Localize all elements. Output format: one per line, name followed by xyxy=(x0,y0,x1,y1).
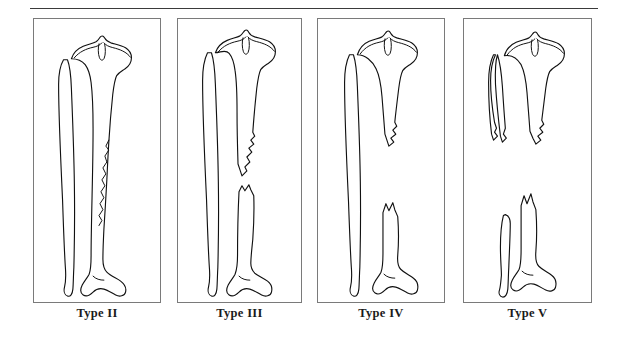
fibula-outline-type-2 xyxy=(59,60,75,297)
tibia-proximal-fragment-type-3 xyxy=(215,30,275,176)
tibia-distal-fragment-type-3 xyxy=(227,185,272,296)
panel-type-3 xyxy=(177,18,302,303)
fibula-outline-type-3 xyxy=(203,53,219,296)
label-type-5: Type V xyxy=(463,304,592,322)
label-type-4: Type IV xyxy=(317,304,445,322)
panel-type-4 xyxy=(317,18,445,303)
figure-root: Type II Type III Type IV Type V xyxy=(0,0,618,346)
tibia-outline-type-2 xyxy=(71,36,131,296)
bone-illustration-type-2 xyxy=(34,19,160,302)
fibula-proximal-fragment-type-5 xyxy=(489,55,507,142)
panel-row xyxy=(0,18,618,304)
fibula-outline-type-4 xyxy=(345,55,361,296)
bone-illustration-type-4 xyxy=(318,19,444,302)
bone-illustration-type-3 xyxy=(178,19,301,302)
label-type-3: Type III xyxy=(177,304,302,322)
header-divider-rule xyxy=(30,8,598,9)
tibia-distal-fragment-type-5 xyxy=(511,194,556,291)
label-type-2: Type II xyxy=(33,304,161,322)
fibula-distal-fragment-type-5 xyxy=(499,215,510,297)
panel-type-5 xyxy=(463,18,592,303)
bone-illustration-type-5 xyxy=(464,19,591,302)
tibia-distal-fragment-type-4 xyxy=(373,203,418,294)
panel-label-row: Type II Type III Type IV Type V xyxy=(0,304,618,334)
panel-type-2 xyxy=(33,18,161,303)
